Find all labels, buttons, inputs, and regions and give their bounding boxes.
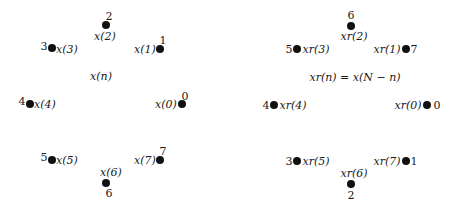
- left-point-4-index: 4: [19, 96, 26, 107]
- left-point-2-index: 2: [106, 11, 113, 22]
- right-center-label: xr(n) = x(N − n): [309, 72, 400, 83]
- left-point-5-dot: [48, 156, 56, 164]
- right-point-xr3-dot: [293, 45, 301, 53]
- left-point-7-index: 7: [160, 146, 167, 157]
- left-point-7-signal: x(7): [134, 155, 156, 166]
- right-point-xr7-dot: [402, 157, 410, 165]
- right-point-xr2-signal: xr(2): [340, 31, 367, 42]
- left-point-0-signal: x(0): [155, 99, 177, 110]
- circular-index-diagram: x(n) 2 x(2) 3 x(3) 1 x(1) 4 x(4) 0 x(0) …: [0, 0, 456, 204]
- right-point-xr7-signal: xr(7): [373, 156, 400, 167]
- left-point-2-signal: x(2): [94, 31, 116, 42]
- left-point-5-signal: x(5): [56, 155, 78, 166]
- left-point-3-index: 3: [41, 41, 48, 52]
- right-point-xr0-index: 0: [434, 100, 441, 111]
- right-point-xr6-index: 2: [348, 190, 355, 201]
- right-point-xr2-index: 6: [348, 10, 355, 21]
- left-point-1-index: 1: [160, 35, 167, 46]
- left-point-4-dot: [26, 100, 34, 108]
- right-point-xr5-index: 3: [286, 156, 293, 167]
- left-point-3-dot: [48, 44, 56, 52]
- left-point-6-index: 6: [106, 188, 113, 199]
- right-point-xr3-index: 5: [286, 44, 293, 55]
- right-point-xr4-index: 4: [263, 100, 270, 111]
- left-point-4-signal: x(4): [34, 99, 56, 110]
- right-point-xr4-signal: xr(4): [279, 100, 306, 111]
- right-point-xr6-dot: [347, 180, 355, 188]
- right-point-xr4-dot: [270, 101, 278, 109]
- right-point-xr5-signal: xr(5): [302, 156, 329, 167]
- left-point-3-signal: x(3): [56, 44, 78, 55]
- right-point-xr1-index: 7: [411, 44, 418, 55]
- right-point-xr1-dot: [402, 45, 410, 53]
- right-point-xr0-dot: [423, 101, 431, 109]
- left-point-5-index: 5: [41, 152, 48, 163]
- right-point-xr3-signal: xr(3): [302, 44, 329, 55]
- right-point-xr1-signal: xr(1): [373, 44, 400, 55]
- right-point-xr5-dot: [293, 157, 301, 165]
- right-point-xr6-signal: xr(6): [340, 168, 367, 179]
- left-point-6-signal: x(6): [100, 167, 122, 178]
- left-point-0-index: 0: [182, 91, 189, 102]
- right-point-xr7-index: 1: [411, 156, 418, 167]
- left-center-label: x(n): [90, 71, 112, 82]
- left-point-1-signal: x(1): [134, 44, 156, 55]
- right-point-xr0-signal: xr(0): [394, 100, 421, 111]
